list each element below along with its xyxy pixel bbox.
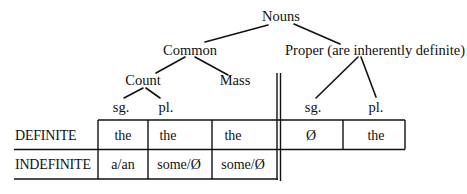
node-proper-sg: sg. — [305, 100, 322, 115]
row-label-definite: DEFINITE — [15, 129, 76, 143]
node-proper-pl: pl. — [369, 100, 384, 115]
node-proper: Proper (are inherently definite) — [285, 43, 465, 58]
cell-definite-count-pl: the — [159, 129, 176, 143]
branch-count-pl — [146, 88, 160, 98]
cell-definite-proper-sg: Ø — [306, 129, 316, 143]
branch-common-count — [156, 57, 185, 73]
node-count-pl: pl. — [159, 100, 174, 115]
branch-proper-pl — [361, 57, 376, 97]
cell-indefinite-mass: some/Ø — [221, 158, 265, 172]
branch-count-sg — [124, 88, 143, 98]
cell-definite-mass: the — [224, 129, 241, 143]
node-nouns: Nouns — [262, 9, 300, 24]
row-label-indefinite: INDEFINITE — [15, 158, 91, 172]
node-mass: Mass — [220, 73, 251, 88]
node-count-sg: sg. — [113, 100, 130, 115]
cell-definite-proper-pl: the — [367, 129, 384, 143]
node-count: Count — [125, 73, 160, 88]
branch-proper-sg — [316, 57, 358, 98]
branch-nouns-common — [205, 25, 268, 42]
cell-indefinite-count-pl: some/Ø — [157, 158, 201, 172]
cell-indefinite-count-sg: a/an — [111, 158, 134, 172]
node-common: Common — [163, 43, 217, 58]
cell-definite-count-sg: the — [114, 129, 131, 143]
